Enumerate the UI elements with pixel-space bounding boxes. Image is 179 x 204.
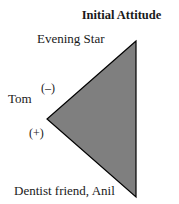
edge-sign-positive: (+) — [29, 127, 44, 139]
attitude-triangle — [47, 41, 136, 197]
node-label-tom: Tom — [8, 92, 32, 105]
node-label-dentist-friend-anil: Dentist friend, Anil — [14, 184, 115, 197]
edge-sign-negative: (–) — [41, 82, 55, 94]
diagram-title: Initial Attitude — [0, 9, 179, 22]
node-label-evening-star: Evening Star — [37, 32, 105, 45]
